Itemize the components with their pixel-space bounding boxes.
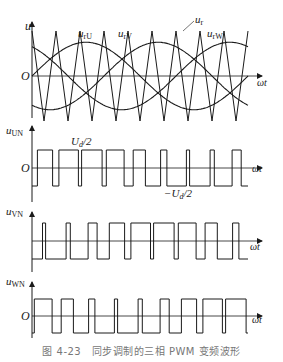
origin-label: O: [21, 161, 30, 175]
label-urW: urW: [207, 27, 223, 41]
y-axis-label: u: [25, 19, 31, 33]
x-axis-label: ωt: [252, 314, 262, 325]
pos-level-label: Ud/2: [71, 135, 92, 149]
uVN-panel: uVN ωt: [6, 205, 262, 272]
carrier-leader-line: [183, 21, 194, 31]
y-axis-label: uVN: [6, 205, 23, 219]
figure-caption: 图 4-23 同步调制的三相 PWM 变频波形: [0, 343, 283, 358]
origin-label: O: [21, 69, 30, 83]
neg-level-label: −Ud/2: [164, 187, 192, 201]
label-urV: urV: [118, 27, 132, 41]
label-ur: ur: [195, 13, 204, 27]
x-axis-label: ωt: [257, 77, 267, 88]
reference-panel: u O ωt urU urV urW ur: [21, 13, 267, 121]
origin-label: O: [21, 309, 30, 323]
y-axis-label: uWN: [6, 275, 25, 289]
pwm-figure: u O ωt urU urV urW ur uUN O ωt Ud/2 −Ud/…: [0, 0, 283, 362]
x-axis-label: ωt: [252, 163, 262, 174]
y-axis-label: uUN: [6, 124, 23, 138]
uWN-panel: uWN O ωt: [6, 275, 262, 338]
x-axis-label: ωt: [250, 241, 260, 252]
label-urU: urU: [78, 27, 92, 41]
uUN-panel: uUN O ωt Ud/2 −Ud/2: [6, 124, 262, 202]
